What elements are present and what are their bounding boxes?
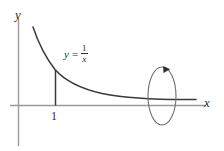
curve-equation-label: y = 1 x (64, 44, 88, 65)
x-tick-label-1: 1 (51, 110, 57, 122)
equation-relation: = (72, 49, 78, 60)
revolution-solid-figure: y x 1 y = 1 x (0, 0, 224, 151)
y-axis-label: y (15, 8, 21, 21)
revolution-arrowhead-icon (164, 67, 170, 73)
equation-fraction: 1 x (81, 44, 88, 65)
x-axis-label: x (204, 96, 210, 109)
figure-canvas (0, 0, 224, 151)
equation-lhs: y (64, 49, 69, 60)
fraction-denominator: x (81, 55, 87, 64)
fraction-numerator: 1 (81, 44, 88, 53)
revolution-ellipse (148, 67, 176, 125)
curve-y-equals-one-over-x (33, 27, 196, 100)
